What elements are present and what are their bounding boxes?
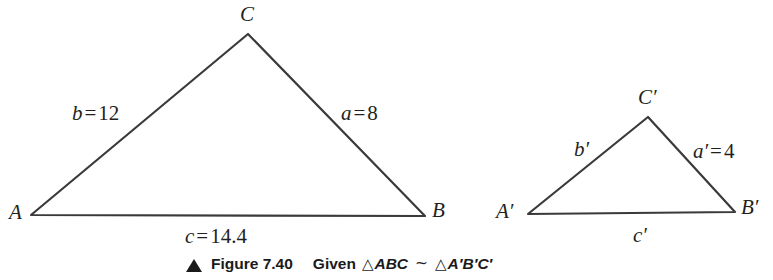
equals-sign-c: = (194, 224, 210, 248)
similar-symbol: ~ (415, 254, 428, 272)
side-value-c: 14.4 (210, 224, 247, 248)
delta-symbol-2: △ (435, 255, 447, 273)
prime-mark-c: ′ (642, 223, 647, 247)
vertex-label-B: B (432, 200, 445, 221)
prime-mark-b: ′ (585, 137, 590, 161)
vertex-label-B-prime: B′ (741, 197, 758, 218)
side-label-c-prime: c′ (633, 225, 647, 246)
equals-sign-a-prime: = (708, 139, 724, 163)
vertex-label-C-prime: C′ (638, 87, 657, 108)
side-label-c: c=14.4 (185, 226, 247, 247)
prime-mark-A: ′ (509, 199, 514, 223)
side-var-b-prime: b (574, 137, 585, 161)
side-var-b: b (72, 101, 83, 125)
caption-given-word: Given (313, 255, 356, 273)
equals-sign-b: = (83, 101, 99, 125)
figure-caption: Figure 7.40 Given △ABC ~ △A′B′C′ (186, 252, 499, 276)
side-label-a: a=8 (341, 103, 378, 124)
vertex-letter-B-prime: B (741, 195, 754, 219)
figure-number: Figure 7.40 (211, 255, 293, 273)
delta-symbol-1: △ (362, 255, 374, 273)
geometry-figure: A B C b=12 a=8 c=14.4 A′ B′ C′ b′ a′=4 c… (0, 0, 773, 280)
caption-triangle-2: A′B′C′ (448, 255, 493, 273)
side-value-b: 12 (98, 101, 119, 125)
triangle-up-marker-icon (186, 259, 202, 272)
vertex-label-A-prime: A′ (496, 201, 513, 222)
vertex-letter-C-prime: C (638, 85, 652, 109)
prime-mark-B: ′ (754, 195, 759, 219)
side-var-c: c (185, 224, 194, 248)
side-label-b: b=12 (72, 103, 119, 124)
equals-sign-a: = (352, 101, 368, 125)
side-value-a-prime: 4 (724, 139, 735, 163)
side-label-b-prime: b′ (574, 139, 589, 160)
vertex-letter-A-prime: A (496, 199, 509, 223)
prime-mark-C: ′ (652, 85, 657, 109)
vertex-label-A: A (9, 202, 22, 223)
side-var-a: a (341, 101, 352, 125)
side-label-a-prime: a′=4 (693, 141, 734, 162)
side-var-a-prime: a (693, 139, 704, 163)
caption-triangle-1: ABC (374, 255, 408, 273)
triangle-ABC-outline (31, 34, 425, 216)
side-value-a: 8 (367, 101, 378, 125)
triangles-drawing (0, 0, 773, 280)
vertex-label-C: C (240, 4, 254, 25)
triangle-A-prime-B-prime-C-prime-outline (528, 117, 735, 214)
side-var-c-prime: c (633, 223, 642, 247)
